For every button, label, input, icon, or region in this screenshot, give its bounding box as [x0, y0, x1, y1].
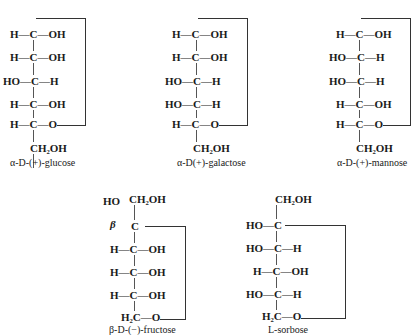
- fructose-c3: H—C—OH: [110, 243, 166, 255]
- sorbose-c5: HO—C—H: [246, 288, 302, 300]
- fructose-c2: C: [131, 220, 139, 232]
- fructose-caption: β-D-(−)-fructose: [109, 324, 176, 335]
- fructose-c4: H—C—OH: [110, 266, 166, 278]
- mannose-c6: CH₂OH: [356, 142, 393, 154]
- galactose-c1: H—C—OH: [172, 28, 228, 40]
- glucose-c4: H—C—OH: [10, 98, 66, 110]
- galactose-caption: α-D(+)-galactose: [177, 157, 246, 168]
- glucose-caption: α-D-(+)-glucose: [10, 157, 75, 168]
- galactose-c3: HO—C—H: [165, 75, 221, 87]
- sorbose-c4: H—C—OH: [253, 265, 309, 277]
- glucose-c3: HO—C—H: [3, 75, 59, 87]
- galactose-c5: H—C—O: [172, 118, 219, 130]
- fructose-anomeric-oh: HO: [103, 195, 120, 207]
- galactose-c6: CH₂OH: [193, 142, 230, 154]
- mannose-c3: HO—C—H: [329, 75, 385, 87]
- sorbose-c6: H₂C—O: [262, 310, 301, 322]
- sorbose-c3: HO—C—H: [246, 242, 302, 254]
- galactose-c2: H—C—OH: [172, 51, 228, 63]
- fructose-c1: CH₂OH: [129, 193, 166, 205]
- glucose-c6: CH₂OH: [30, 142, 67, 154]
- glucose-c5: H—C—O: [10, 118, 57, 130]
- mannose-c2: HO—C—H: [329, 51, 385, 63]
- sorbose-caption: L-sorbose: [268, 324, 308, 335]
- glucose-c2: H—C—OH: [10, 51, 66, 63]
- beta-label: β: [110, 218, 116, 230]
- sorbose-c2: HO—C: [246, 219, 282, 231]
- mannose-c4: H—C—OH: [336, 98, 392, 110]
- sorbose-c1: CH₂OH: [275, 193, 312, 205]
- mannose-c5: H—C—O: [336, 118, 383, 130]
- mannose-caption: α-D-(+)-mannose: [337, 157, 407, 168]
- galactose-c4: HO—C—H: [165, 98, 221, 110]
- mannose-c1: H—C—OH: [336, 28, 392, 40]
- fructose-c6: H₂C—O: [121, 311, 160, 323]
- fructose-c5: H—C—OH: [110, 289, 166, 301]
- glucose-c1: H—C—OH: [10, 28, 66, 40]
